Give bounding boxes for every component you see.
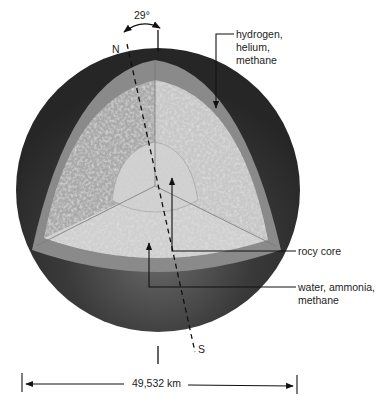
diameter-arrow-right: [188, 385, 293, 386]
atmosphere-label-line-2: helium,: [236, 41, 270, 54]
tilt-arc: [124, 24, 160, 32]
north-pole-label: N: [112, 43, 120, 56]
core-label: rocy core: [298, 245, 341, 258]
diameter-label: 49,532 km: [132, 377, 181, 390]
tilt-angle-label: 29°: [134, 9, 150, 22]
mantle-label-line-2: methane: [298, 294, 339, 307]
mantle-label-line-1: water, ammonia,: [298, 281, 375, 294]
south-pole-label: S: [198, 343, 205, 356]
atmosphere-label-line-1: hydrogen,: [236, 28, 283, 41]
atmosphere-label-line-3: methane: [236, 54, 277, 67]
neptune-diagram: [0, 0, 383, 409]
